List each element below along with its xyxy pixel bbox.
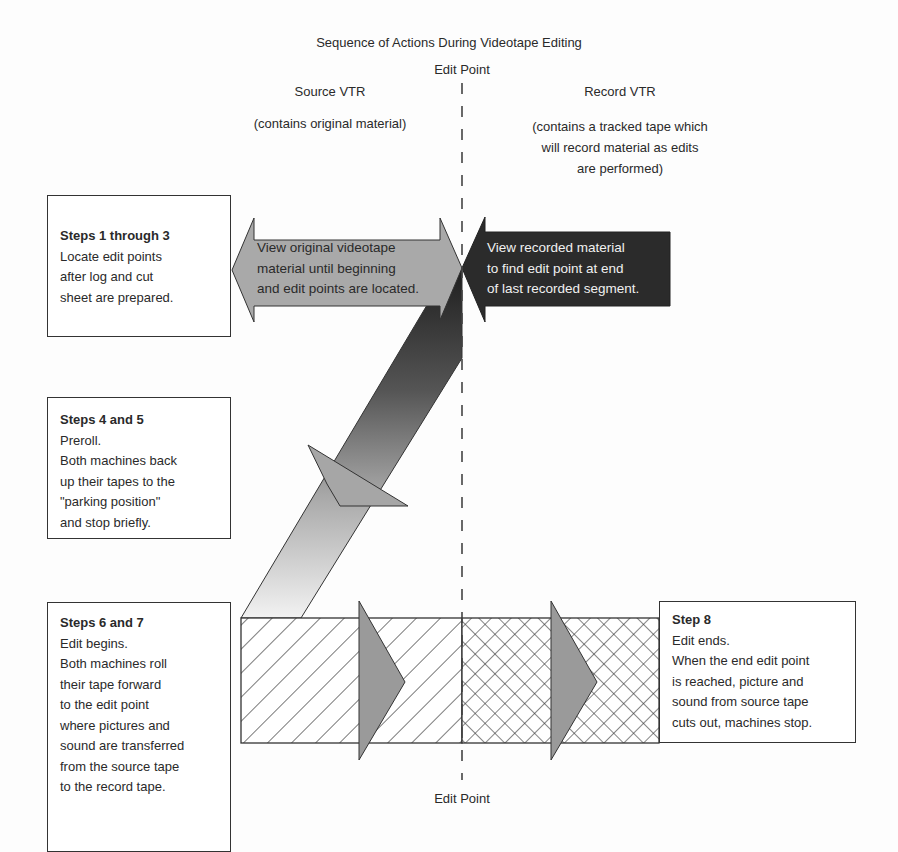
step-title: Steps 6 and 7 — [60, 613, 230, 634]
record-vtr-heading: Record VTR — [510, 84, 730, 99]
arrow-text-line: View original videotape — [257, 238, 419, 259]
step-line: Edit begins. — [60, 634, 230, 655]
step-line: "parking position" — [60, 492, 230, 513]
step-box-1-3: Steps 1 through 3 Locate edit points aft… — [47, 195, 231, 337]
source-view-text: View original videotape material until b… — [257, 238, 419, 300]
edit-point-label-top: Edit Point — [412, 62, 512, 77]
step-line: When the end edit point — [672, 651, 855, 672]
arrow-text-line: View recorded material — [487, 238, 639, 259]
step-line: Both machines back — [60, 451, 230, 472]
step-line: Locate edit points — [60, 247, 230, 268]
source-vtr-subtitle: (contains original material) — [230, 116, 430, 131]
step-title: Step 8 — [672, 610, 855, 631]
step-line: up their tapes to the — [60, 472, 230, 493]
edit-point-label-bottom: Edit Point — [412, 791, 512, 806]
source-vtr-heading: Source VTR — [240, 84, 420, 99]
step-line: and stop briefly. — [60, 513, 230, 534]
step-line: cuts out, machines stop. — [672, 713, 855, 734]
record-subtitle-line: are performed) — [470, 158, 770, 179]
step-line: Both machines roll — [60, 654, 230, 675]
record-vtr-subtitle: (contains a tracked tape which will reco… — [470, 116, 770, 179]
step-line: where pictures and — [60, 716, 230, 737]
record-subtitle-line: (contains a tracked tape which — [470, 116, 770, 137]
preroll-band — [241, 268, 462, 618]
step-line: after log and cut — [60, 267, 230, 288]
record-subtitle-line: will record material as edits — [470, 137, 770, 158]
arrow-text-line: and edit points are located. — [257, 279, 419, 300]
step-box-8: Step 8 Edit ends. When the end edit poin… — [659, 601, 856, 743]
arrow-text-line: of last recorded segment. — [487, 279, 639, 300]
record-view-text: View recorded material to find edit poin… — [487, 238, 639, 300]
step-line: is reached, picture and — [672, 672, 855, 693]
step-title: Steps 1 through 3 — [60, 226, 230, 247]
step-line: sheet are prepared. — [60, 288, 230, 309]
step-line: sound from source tape — [672, 692, 855, 713]
diagram-title: Sequence of Actions During Videotape Edi… — [0, 35, 898, 50]
step-line: to the edit point — [60, 695, 230, 716]
step-title: Steps 4 and 5 — [60, 410, 230, 431]
step-line: Edit ends. — [672, 631, 855, 652]
step-line: Preroll. — [60, 431, 230, 452]
step-line: sound are transferred — [60, 736, 230, 757]
arrow-text-line: to find edit point at end — [487, 259, 639, 280]
step-box-4-5: Steps 4 and 5 Preroll. Both machines bac… — [47, 397, 231, 539]
step-line: to the record tape. — [60, 777, 230, 798]
step-line: their tape forward — [60, 675, 230, 696]
step-line: from the source tape — [60, 757, 230, 778]
arrow-text-line: material until beginning — [257, 259, 419, 280]
step-box-6-7: Steps 6 and 7 Edit begins. Both machines… — [47, 602, 231, 852]
